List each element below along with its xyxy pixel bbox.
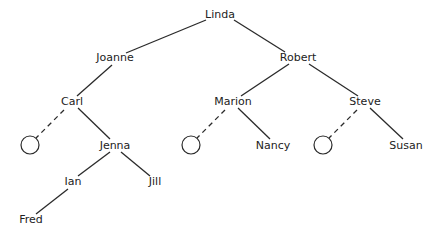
edge-ian-to-fred <box>36 189 68 214</box>
tree-edges <box>36 20 403 214</box>
node-label-marion: Marion <box>214 95 252 108</box>
edge-jenna-to-jill <box>121 152 150 176</box>
edge-marion-to-nancy <box>238 108 270 139</box>
dashed-edge-carl-to-carl-left-null <box>36 110 64 138</box>
node-label-steve: Steve <box>349 95 381 108</box>
node-label-robert: Robert <box>280 51 317 64</box>
node-label-susan: Susan <box>389 139 422 152</box>
node-label-ian: Ian <box>65 175 82 188</box>
node-label-fred: Fred <box>19 213 43 226</box>
node-label-jenna: Jenna <box>99 139 131 152</box>
edge-joanne-to-carl <box>77 65 112 96</box>
node-label-nancy: Nancy <box>256 139 291 152</box>
node-label-jill: Jill <box>148 175 161 188</box>
edge-linda-to-robert <box>234 20 285 52</box>
edge-robert-to-marion <box>241 64 289 96</box>
edge-jenna-to-ian <box>78 152 110 176</box>
dashed-edge-steve-to-steve-left-null <box>329 110 357 138</box>
edge-carl-to-jenna <box>78 108 110 139</box>
steve-left-null-circle-icon <box>314 136 332 154</box>
edge-robert-to-steve <box>309 64 358 96</box>
node-label-carl: Carl <box>61 95 83 108</box>
marion-left-null-circle-icon <box>182 136 200 154</box>
edge-steve-to-susan <box>370 108 403 139</box>
node-label-linda: Linda <box>205 8 235 21</box>
tree-node-labels: LindaJoanneRobertCarlMarionSteveJennaNan… <box>19 8 423 226</box>
tree-diagram: LindaJoanneRobertCarlMarionSteveJennaNan… <box>0 0 441 236</box>
edge-linda-to-joanne <box>126 20 206 53</box>
carl-left-null-circle-icon <box>21 136 39 154</box>
dashed-edge-marion-to-marion-left-null <box>197 110 225 138</box>
node-label-joanne: Joanne <box>95 51 134 64</box>
